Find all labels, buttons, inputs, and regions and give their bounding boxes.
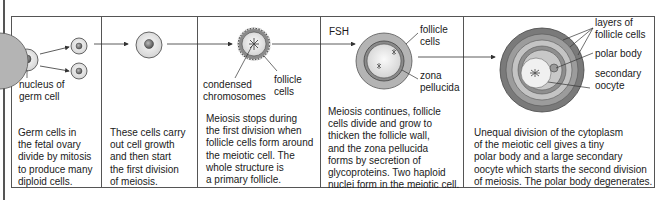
description-stage-1: Germ cells in the fetal ovary divide by … xyxy=(18,127,93,188)
label-layers-of-follicle-cells: layers of follicle cells xyxy=(595,17,646,41)
description-stage-2: These cells carry out cell growth and th… xyxy=(110,127,186,188)
label-follicle-cells: follicle cells xyxy=(420,24,448,48)
label-fsh: FSH xyxy=(329,26,349,38)
description-stage-3: Meiosis stops during the first division … xyxy=(206,113,313,186)
germ-cell-diagram xyxy=(16,38,128,79)
secondary-oocyte-diagram xyxy=(500,28,593,112)
label-condensed-chromosomes: condensed chromosomes xyxy=(203,79,266,103)
label-polar-body: polar body xyxy=(595,48,642,60)
label-secondary-oocyte: secondary oocyte xyxy=(595,68,641,92)
growing-cell-diagram xyxy=(136,32,232,58)
label-zona-pellucida: zona pellucida xyxy=(420,70,459,94)
description-stage-5: Unequal division of the cytoplasm of the… xyxy=(474,127,652,188)
label-follicle-cells-primary: follicle cells xyxy=(274,74,302,98)
label-nucleus-of-germ-cell: nucleus of germ cell xyxy=(19,79,65,103)
description-stage-4: Meiosis continues, follicle cells divide… xyxy=(328,106,459,191)
